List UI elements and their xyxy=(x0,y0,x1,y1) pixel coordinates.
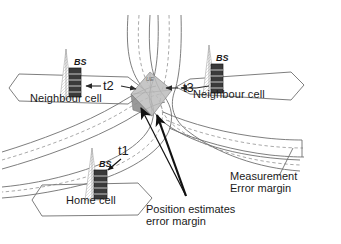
position-estimate-callout-arrows xyxy=(141,108,186,196)
positioning-diagram: Neighbour cell Neighbour cell Home cell … xyxy=(0,0,341,244)
timing-label-t1: t1 xyxy=(118,143,129,158)
timing-label-t3: t3 xyxy=(183,80,194,95)
measurement-error-margin-line2: Error margin xyxy=(230,182,297,194)
measurement-band-right xyxy=(163,112,304,176)
position-estimates-line1: Position estimates xyxy=(146,203,235,215)
bs-label-left: BS xyxy=(74,57,87,67)
bs-label-home: BS xyxy=(99,159,112,169)
bs-label-right: BS xyxy=(216,53,229,63)
measurement-error-margin-annotation: Measurement Error margin xyxy=(230,170,297,195)
cell-label-home: Home cell xyxy=(66,194,116,206)
cell-label-right: Neighbour cell xyxy=(193,88,265,100)
base-station-home xyxy=(85,148,107,200)
position-estimates-line2: error margin xyxy=(146,215,235,227)
position-estimates-error-margin-annotation: Position estimates error margin xyxy=(146,203,235,228)
timing-label-t2: t2 xyxy=(103,78,114,93)
ue-label: UE xyxy=(146,76,154,82)
measurement-error-margin-line1: Measurement xyxy=(230,170,297,182)
cell-label-left: Neighbour cell xyxy=(30,92,102,104)
